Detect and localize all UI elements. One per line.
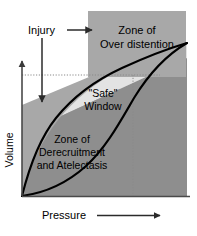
pressure-volume-diagram: Injury Zone of Over distention "Safe" Wi… bbox=[0, 0, 197, 236]
zone-derecruitment-label-line1: Zone of bbox=[54, 133, 90, 145]
zone-derecruitment-label-line2: Derecruitment bbox=[39, 146, 105, 158]
figure-container: Injury Zone of Over distention "Safe" Wi… bbox=[0, 0, 197, 236]
x-axis-label: Pressure bbox=[42, 209, 86, 221]
zone-safe-window-label-line1: "Safe" bbox=[88, 87, 117, 99]
zone-over-distention-label-line2: Over distention bbox=[100, 38, 174, 50]
zone-derecruitment-label-line3: and Atelectasis bbox=[37, 159, 108, 171]
zone-over-distention-label-line1: Zone of bbox=[118, 24, 156, 36]
zone-safe-window-label-line2: Window bbox=[84, 100, 122, 112]
y-axis-label: Volume bbox=[3, 132, 15, 167]
injury-label: Injury bbox=[28, 24, 55, 36]
